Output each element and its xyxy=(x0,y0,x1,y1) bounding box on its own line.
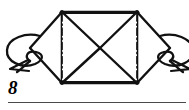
right-flap xyxy=(137,12,170,83)
figure-container: 8 xyxy=(0,0,189,110)
left-flap xyxy=(30,12,62,83)
figure-number-label: 8 xyxy=(8,78,18,97)
fold-diagram-illustration xyxy=(0,0,189,110)
